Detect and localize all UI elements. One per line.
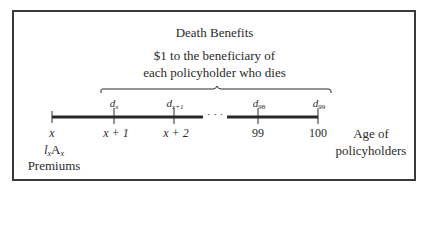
- tick-label-x: x: [49, 126, 54, 141]
- axis-label-line1: Age of: [353, 126, 389, 142]
- axis-label-line2: policyholders: [336, 143, 407, 159]
- timeline-ellipsis: · · ·: [207, 108, 224, 120]
- brace: [101, 86, 331, 93]
- premium-label: Premiums: [28, 158, 81, 174]
- death-label-dx: dx: [110, 96, 119, 111]
- death-label-d98: d98: [253, 96, 266, 111]
- tick-label-99: 99: [252, 126, 264, 141]
- death-label-dx1: dx+1: [167, 96, 184, 111]
- tick-label-x-plus-1: x + 1: [103, 126, 128, 141]
- premium-symbol: lxAx: [44, 142, 64, 158]
- death-label-d99: d99: [313, 96, 326, 111]
- tick-label-100: 100: [309, 126, 327, 141]
- tick-label-x-plus-2: x + 2: [163, 126, 188, 141]
